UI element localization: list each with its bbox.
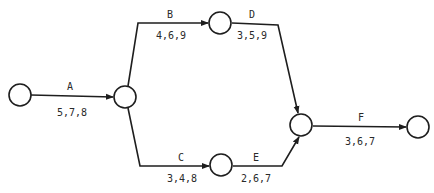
network-diagram: A 5,7,8 B 4,6,9 C 3,4,8 D 3,5,9 E 2,6,7 … — [0, 0, 434, 193]
node-1 — [9, 84, 31, 106]
activity-c-estimates: 3,4,8 — [167, 173, 197, 184]
activity-f-name: F — [358, 112, 364, 123]
activity-a-estimates: 5,7,8 — [57, 107, 87, 118]
activity-a-name: A — [67, 81, 73, 92]
activity-d-estimates: 3,5,9 — [237, 30, 267, 41]
node-6 — [407, 116, 429, 138]
activity-e-arrow — [233, 137, 299, 166]
node-5 — [290, 114, 312, 136]
node-2 — [114, 86, 136, 108]
activity-f-estimates: 3,6,7 — [345, 136, 375, 147]
activity-d-name: D — [249, 9, 255, 20]
node-4 — [210, 154, 232, 176]
activity-c-name: C — [178, 152, 184, 163]
node-3 — [209, 12, 231, 34]
activity-e-estimates: 2,6,7 — [241, 173, 271, 184]
activity-b-estimates: 4,6,9 — [156, 30, 186, 41]
activity-e-name: E — [253, 152, 259, 163]
activity-f-arrow — [313, 126, 406, 127]
activity-a-arrow — [31, 95, 113, 97]
activity-c-arrow — [128, 108, 209, 166]
activity-b-name: B — [167, 9, 173, 20]
